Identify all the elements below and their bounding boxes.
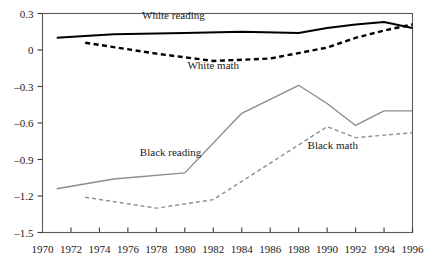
series-label-black-reading: Black reading — [140, 146, 202, 158]
x-axis-label: 1994 — [373, 243, 396, 255]
series-label-white-math: White math — [187, 59, 239, 71]
series-line-white-reading — [57, 22, 413, 38]
y-axis-label: –0.6 — [13, 117, 34, 129]
x-axis-label: 1980 — [174, 243, 197, 255]
y-axis-label: –0.9 — [13, 154, 34, 166]
x-axis-label: 1972 — [60, 243, 82, 255]
x-axis-label: 1996 — [402, 243, 425, 255]
y-axis-label: –0.3 — [13, 81, 34, 93]
line-chart: 0.30–0.3–0.6–0.9–1.2–1.51970197219741976… — [0, 0, 428, 269]
x-axis-label: 1982 — [202, 243, 224, 255]
series-line-black-reading — [57, 85, 413, 188]
series-line-black-math — [85, 127, 412, 209]
y-axis-label: –1.2 — [13, 190, 33, 202]
series-label-black-math: Black math — [308, 139, 359, 151]
x-axis-label: 1984 — [231, 243, 254, 255]
x-axis-label: 1988 — [288, 243, 311, 255]
x-axis-label: 1986 — [259, 243, 282, 255]
series-line-white-math — [85, 24, 412, 61]
y-axis-label: 0 — [28, 44, 34, 56]
y-axis-label: 0.3 — [20, 8, 34, 20]
y-axis-label: –1.5 — [13, 227, 34, 239]
x-axis-label: 1974 — [88, 243, 111, 255]
x-axis-label: 1978 — [145, 243, 168, 255]
x-axis-label: 1990 — [316, 243, 339, 255]
x-axis-label: 1976 — [117, 243, 140, 255]
chart-container: 0.30–0.3–0.6–0.9–1.2–1.51970197219741976… — [0, 0, 428, 269]
x-axis-label: 1970 — [32, 243, 55, 255]
x-axis-label: 1992 — [345, 243, 367, 255]
plot-frame — [43, 14, 413, 233]
series-label-white-reading: White reading — [142, 9, 205, 21]
